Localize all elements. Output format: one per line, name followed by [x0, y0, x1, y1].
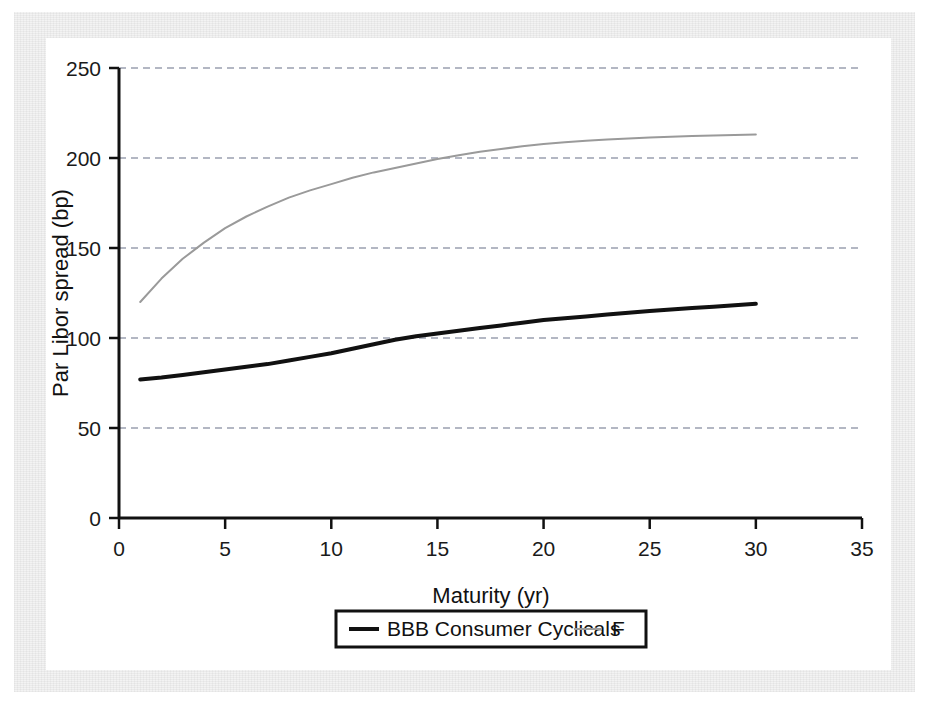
x-tick-label-35: 35	[850, 537, 873, 560]
y-tick-label-50: 50	[78, 417, 101, 440]
x-tick-label-30: 30	[744, 537, 767, 560]
x-axis-ticks	[119, 518, 862, 529]
y-axis-title: Par Libor spread (bp)	[48, 189, 73, 397]
y-tick-label-250: 250	[66, 57, 101, 80]
chart-canvas: 050100150200250 05101520253035 Maturity …	[46, 38, 891, 670]
x-tick-label-25: 25	[638, 537, 661, 560]
x-tick-label-20: 20	[532, 537, 555, 560]
x-tick-label-10: 10	[320, 537, 343, 560]
data-series-group	[140, 135, 756, 380]
x-tick-label-15: 15	[426, 537, 449, 560]
chart-legend: BBB Consumer Cyclicals F	[336, 611, 646, 647]
x-tick-label-5: 5	[219, 537, 231, 560]
legend-label-f: F	[612, 617, 625, 640]
series-line-bbb-consumer-cyclicals	[140, 304, 756, 380]
gridlines	[119, 68, 862, 428]
figure-root: 050100150200250 05101520253035 Maturity …	[0, 0, 929, 706]
y-tick-label-0: 0	[89, 507, 101, 530]
x-axis-title: Maturity (yr)	[432, 583, 549, 608]
x-axis-tick-labels: 05101520253035	[113, 537, 874, 560]
series-line-f	[140, 135, 756, 302]
x-tick-label-0: 0	[113, 537, 125, 560]
y-tick-label-200: 200	[66, 147, 101, 170]
line-chart: 050100150200250 05101520253035 Maturity …	[46, 38, 891, 670]
